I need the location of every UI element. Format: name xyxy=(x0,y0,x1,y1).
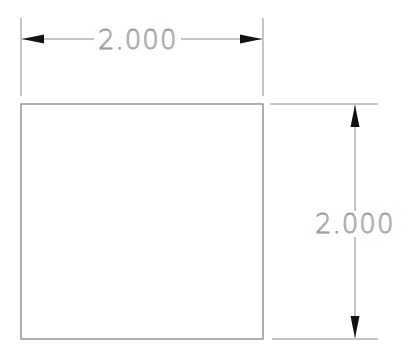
vertical-dimension-label: 2.000 xyxy=(311,211,398,237)
arrow-down-icon xyxy=(351,316,360,338)
cad-drawing xyxy=(0,0,416,361)
arrow-up-icon xyxy=(351,105,360,127)
horizontal-dimension-label: 2.000 xyxy=(94,27,181,53)
arrow-right-icon xyxy=(240,35,262,44)
square-shape xyxy=(21,104,263,339)
arrow-left-icon xyxy=(22,35,44,44)
